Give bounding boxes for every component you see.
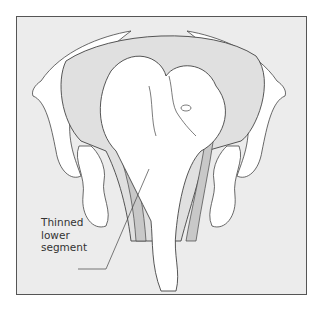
label-line-3: segment [41,241,87,254]
label-line-2: lower [41,229,87,242]
label-thinned-lower-segment: Thinned lower segment [41,216,87,254]
pelvis-left-lower [77,146,108,227]
figure-frame: Thinned lower segment [16,16,307,295]
label-line-1: Thinned [41,216,87,229]
pelvis-right-lower [210,146,241,227]
